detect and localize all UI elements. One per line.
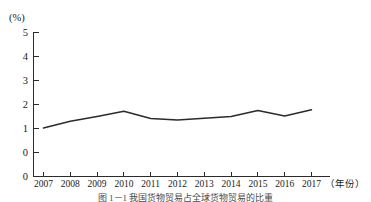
- x-tick-label-2007: 2007: [34, 179, 53, 189]
- chart-page: (%) 5 4 3 2 1 0 0: [0, 0, 371, 202]
- x-tick-label-2010: 2010: [114, 179, 133, 189]
- y-tick-label-0: 0: [23, 147, 28, 158]
- data-series-line: [44, 110, 312, 128]
- chart-plot-area: (%) 5 4 3 2 1 0 0: [0, 0, 371, 202]
- x-tick-label-2014: 2014: [222, 179, 241, 189]
- y-tick-label-1: 1: [23, 123, 28, 134]
- x-tick-label-2015: 2015: [248, 179, 267, 189]
- x-tick-label-2008: 2008: [61, 179, 80, 189]
- x-tick-label-2012: 2012: [168, 179, 187, 189]
- x-tick-label-2011: 2011: [141, 179, 160, 189]
- x-axis-tick-labels: 2007 2008 2009 2010 2011 2012 2013 2014 …: [34, 179, 321, 189]
- x-tick-label-2013: 2013: [195, 179, 214, 189]
- y-axis-baseline-label: 0: [23, 171, 28, 182]
- x-tick-label-2009: 2009: [88, 179, 107, 189]
- y-tick-label-3: 3: [23, 75, 28, 86]
- y-tick-label-2: 2: [23, 99, 28, 110]
- y-axis-ticks: [34, 33, 39, 153]
- y-axis-unit-label: (%): [9, 12, 25, 24]
- y-axis-tick-labels: 5 4 3 2 1 0 0: [23, 27, 29, 182]
- x-axis-name-label: （年份）: [325, 178, 365, 189]
- y-tick-label-4: 4: [23, 51, 29, 62]
- y-tick-label-5: 5: [23, 27, 28, 38]
- x-axis-ticks: [44, 172, 312, 177]
- line-chart-figure: (%) 5 4 3 2 1 0 0: [0, 0, 371, 202]
- figure-caption: 图 1－1 我国货物贸易占全球货物贸易的比重: [0, 193, 371, 202]
- x-tick-label-2016: 2016: [275, 179, 294, 189]
- x-tick-label-2017: 2017: [302, 179, 321, 189]
